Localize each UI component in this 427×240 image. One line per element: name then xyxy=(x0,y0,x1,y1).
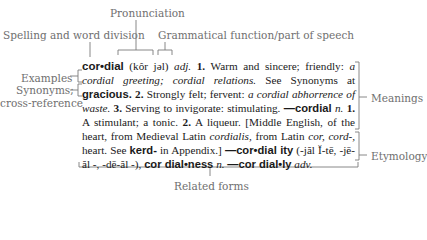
sense-number: 2. xyxy=(135,88,143,100)
related-form: —cor•dial ity xyxy=(225,144,293,156)
etymology-root: kerd- xyxy=(130,144,157,156)
etymology-text: from Latin xyxy=(255,130,304,142)
etymology-text: heart. See xyxy=(82,144,126,156)
part-of-speech: n. xyxy=(335,102,343,114)
headword: cor•dial xyxy=(82,60,124,72)
sense-number: 2. xyxy=(183,116,191,128)
sense-number: 3. xyxy=(114,102,122,114)
pronunciation: (kôr jəl) xyxy=(129,60,168,72)
related-form: cor dial•ness xyxy=(144,158,213,170)
dictionary-entry: cor•dial (kôr jəl) adj. 1. Warm and sinc… xyxy=(82,59,355,171)
related-form: —cor dial•ly xyxy=(227,158,291,170)
part-of-speech: adj. xyxy=(174,60,191,72)
sense-number: 1. xyxy=(347,102,355,114)
etymology-word: cor, cord-, xyxy=(308,130,355,142)
synonym-note: See Synonyms at xyxy=(265,74,355,86)
etymology-word: cordialis, xyxy=(210,130,252,142)
part-of-speech: adv. xyxy=(294,158,312,170)
definition: A stimulant; a tonic. xyxy=(82,116,178,128)
sense-number: 1. xyxy=(197,60,205,72)
definition: Strongly felt; fervent: xyxy=(147,88,245,100)
definition: Warm and sincere; friendly: xyxy=(211,60,344,72)
definition: Serving to invigorate: stimulating. xyxy=(125,102,280,114)
synonym-reference: gracious. xyxy=(82,88,132,100)
definition: A liqueur. xyxy=(195,116,241,128)
part-of-speech: n. xyxy=(216,158,224,170)
noun-form: —cordial xyxy=(284,102,332,114)
etymology-text: in Appendix.] xyxy=(160,144,222,156)
